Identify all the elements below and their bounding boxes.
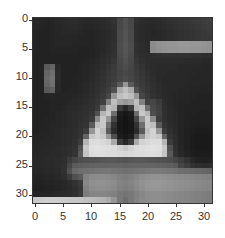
y-tick-label: 10 (6, 70, 28, 82)
x-tick-mark (120, 204, 121, 207)
y-tick-label: 0 (6, 12, 28, 24)
x-tick-mark (63, 204, 64, 207)
y-tick-mark (29, 49, 32, 50)
grayscale-image (33, 18, 212, 203)
x-tick-mark (148, 204, 149, 207)
x-tick-mark (176, 204, 177, 207)
y-tick-mark (29, 136, 32, 137)
y-tick-mark (29, 20, 32, 21)
y-tick-mark (29, 166, 32, 167)
y-tick-mark (29, 78, 32, 79)
x-tick-mark (35, 204, 36, 207)
x-tick-label: 15 (110, 210, 130, 222)
y-tick-label: 25 (6, 158, 28, 170)
x-tick-label: 5 (53, 210, 73, 222)
y-tick-mark (29, 107, 32, 108)
figure: 0 5 10 15 20 25 30 0 5 10 15 20 25 30 (0, 0, 225, 238)
x-tick-label: 10 (81, 210, 101, 222)
y-tick-label: 5 (6, 41, 28, 53)
x-tick-mark (204, 204, 205, 207)
x-tick-label: 25 (166, 210, 186, 222)
y-tick-label: 20 (6, 128, 28, 140)
x-tick-label: 30 (194, 210, 214, 222)
pixel-cell (206, 197, 212, 203)
y-tick-label: 15 (6, 99, 28, 111)
y-tick-mark (29, 195, 32, 196)
x-tick-mark (91, 204, 92, 207)
image-plot-area (32, 17, 213, 204)
y-tick-label: 30 (6, 187, 28, 199)
x-tick-label: 20 (138, 210, 158, 222)
x-tick-label: 0 (25, 210, 45, 222)
